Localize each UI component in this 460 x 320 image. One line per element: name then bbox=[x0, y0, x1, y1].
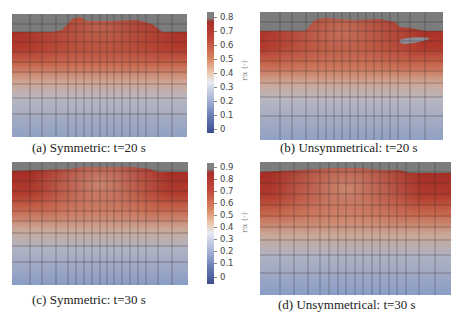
panel-a-caption: (a) Symmetric: t=20 s bbox=[32, 140, 146, 156]
panel-c-plot bbox=[12, 162, 188, 285]
colorbar-1-label: rα (-) bbox=[240, 60, 249, 81]
panel-b-caption: (b) Unsymmetrical: t=20 s bbox=[280, 140, 418, 156]
colorbar-2-label: rα (-) bbox=[240, 212, 249, 233]
panel-c-caption: (c) Symmetric: t=30 s bbox=[32, 292, 146, 308]
panel-a-plot bbox=[12, 14, 187, 137]
colorbar-1 bbox=[207, 12, 214, 133]
colorbar-2 bbox=[207, 163, 214, 284]
panel-b-plot bbox=[260, 12, 443, 140]
panel-d-caption: (d) Unsymmetrical: t=30 s bbox=[278, 297, 416, 313]
panel-d-plot bbox=[260, 162, 451, 295]
